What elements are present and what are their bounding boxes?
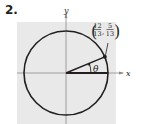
x-axis-arrow-icon: [119, 72, 124, 75]
right-paren: ): [114, 22, 120, 41]
y-axis-label: y: [63, 6, 69, 15]
x-denominator: 13: [93, 30, 101, 38]
point-marker: [103, 55, 107, 59]
angle-label: θ: [93, 64, 99, 74]
x-axis-label: x: [126, 69, 131, 78]
y-denominator: 13: [106, 30, 114, 38]
coordinate-separator: ,: [102, 28, 104, 36]
x-numerator: 12: [93, 22, 101, 30]
y-numerator: 5: [108, 22, 112, 30]
unit-circle-diagram: y x θ ( 12 13 , 5 13 ): [0, 0, 142, 124]
